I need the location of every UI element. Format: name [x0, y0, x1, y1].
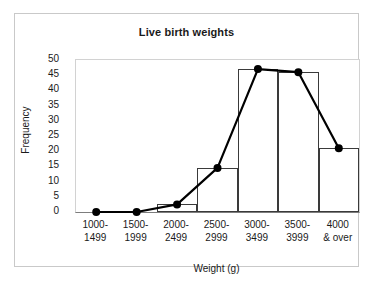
- y-axis-tick-label: 30: [35, 115, 59, 125]
- y-axis-tick-label: 20: [35, 145, 59, 155]
- histogram-bar: [319, 148, 359, 212]
- y-axis-tick-label: 25: [35, 130, 59, 140]
- histogram-bar: [157, 204, 197, 212]
- histogram-bar: [197, 168, 237, 212]
- data-point-marker: [133, 208, 141, 216]
- y-axis-title: Frequency: [20, 106, 31, 153]
- x-axis-tick-label: 4000 & over: [315, 219, 361, 244]
- x-axis-title: Weight (g): [75, 263, 358, 274]
- y-axis-tick-label: 50: [35, 54, 59, 64]
- y-axis-tick-label: 40: [35, 84, 59, 94]
- y-axis-tick-label: 10: [35, 176, 59, 186]
- data-point-marker: [92, 208, 100, 216]
- y-axis-tick-label: 0: [35, 206, 59, 216]
- histogram-bar: [238, 69, 278, 212]
- plot-area: [75, 59, 360, 213]
- x-axis-tick-labels: 1000- 14991500- 19992000- 24992500- 2999…: [75, 219, 358, 259]
- y-axis-tick-label: 45: [35, 69, 59, 79]
- y-axis-tick-label: 15: [35, 160, 59, 170]
- y-axis-tick-label: 5: [35, 191, 59, 201]
- chart-outer-frame: Live birth weights Frequency 05101520253…: [14, 13, 359, 267]
- histogram-bar: [278, 72, 318, 212]
- y-axis-tick-labels: 05101520253035404550: [35, 46, 59, 216]
- chart-title: Live birth weights: [15, 26, 358, 38]
- chart-figure: Live birth weights Frequency 05101520253…: [0, 0, 374, 283]
- y-axis-tick-label: 35: [35, 100, 59, 110]
